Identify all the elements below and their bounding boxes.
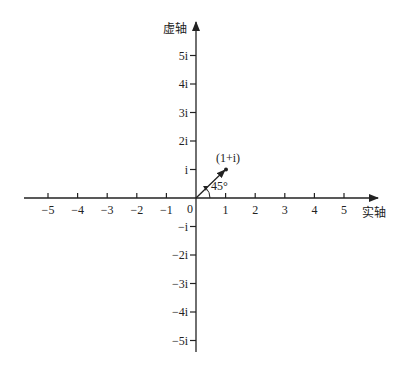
real-tick-label: −1 [160,203,173,217]
imaginary-tick-label: i [185,163,189,177]
real-tick-label: 5 [341,203,347,217]
imaginary-tick-label: −3i [172,277,189,291]
imaginary-tick-label: −i [178,220,189,234]
real-tick-label: 4 [311,203,317,217]
imaginary-tick-label: −2i [172,248,189,262]
real-axis-label: 实轴 [362,205,386,220]
origin-label: 0 [187,202,193,216]
imaginary-tick-label: 4i [179,77,189,91]
imaginary-tick-label: 5i [179,49,189,63]
real-tick-label: −2 [130,203,143,217]
real-axis-ticks: −5−4−3−2−112345 [42,193,347,217]
angle-label: 45° [211,179,228,193]
angle-arc [206,188,210,198]
point-label: (1+i) [216,151,240,165]
imaginary-axis-label: 虚轴 [163,21,187,36]
imaginary-tick-label: −4i [172,305,189,319]
real-tick-label: 2 [252,203,258,217]
imaginary-tick-label: 3i [179,106,189,120]
point-marker [224,168,228,172]
real-tick-label: −3 [101,203,114,217]
real-tick-label: 3 [282,203,288,217]
real-tick-label: 1 [223,203,229,217]
imaginary-tick-label: −5i [172,334,189,348]
imaginary-tick-label: 2i [179,134,189,148]
complex-plane-diagram: −5−4−3−2−112345 5i4i3i2ii−i−2i−3i−4i−5i … [0,0,404,376]
real-tick-label: −4 [71,203,84,217]
real-tick-label: −5 [42,203,55,217]
